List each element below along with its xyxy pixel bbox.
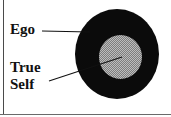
label-true-self-line2: Self: [10, 76, 34, 92]
ego-true-self-figure: Ego TrueSelf: [0, 0, 171, 117]
label-ego: Ego: [10, 21, 35, 38]
ego-leader-line: [42, 31, 90, 32]
label-true-self: TrueSelf: [10, 59, 41, 93]
true-self-leader-line: [49, 57, 122, 81]
label-true-self-line1: True: [10, 59, 41, 75]
